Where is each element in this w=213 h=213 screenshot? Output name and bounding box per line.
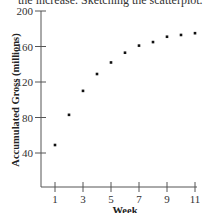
x-tick-label: 3 <box>80 193 86 205</box>
x-tick-label: 9 <box>164 193 170 205</box>
x-tick-label: 5 <box>108 193 114 205</box>
axes <box>41 11 197 187</box>
data-point <box>124 51 127 54</box>
data-point <box>166 35 169 38</box>
data-point <box>152 41 155 44</box>
y-tick-label: 80 <box>22 112 34 124</box>
data-point <box>68 114 71 117</box>
x-tick-label: 7 <box>136 193 142 205</box>
data-point <box>82 90 85 93</box>
x-axis-title: Week <box>112 205 137 213</box>
x-ticks: 1357911 <box>52 182 200 205</box>
data-point <box>54 144 57 147</box>
x-tick-label: 1 <box>52 193 58 205</box>
y-tick-label: 40 <box>22 147 34 159</box>
data-point <box>96 73 99 76</box>
data-point <box>180 34 183 37</box>
x-tick-label: 11 <box>190 193 201 205</box>
data-point <box>194 32 197 35</box>
data-points <box>54 32 197 146</box>
data-point <box>138 44 141 47</box>
scatter-chart: 4080120160200 1357911 Accumulated Gross … <box>0 0 213 213</box>
y-tick-label: 200 <box>17 5 34 17</box>
data-point <box>110 61 113 64</box>
y-axis-title: Accumulated Gross (millions) <box>10 33 22 167</box>
